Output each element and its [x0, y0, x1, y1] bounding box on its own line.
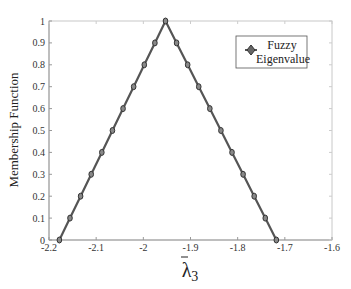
data-point-marker	[153, 40, 158, 46]
data-point-marker	[252, 193, 257, 199]
data-point-marker	[57, 237, 62, 243]
x-tick-label: -1.9	[183, 242, 199, 253]
data-point-marker	[174, 40, 179, 46]
y-tick-label: 0.2	[33, 191, 46, 202]
x-axis-label: λ3	[182, 259, 199, 284]
data-point-marker	[131, 84, 136, 90]
y-axis-label: Membership Function	[6, 72, 21, 188]
y-tick-label: 0.7	[33, 81, 46, 92]
data-point-marker	[100, 149, 105, 155]
x-tick-label: -2	[139, 242, 147, 253]
x-tick-label: -1.7	[277, 242, 293, 253]
x-axis-label-sub: 3	[191, 269, 198, 284]
legend: Fuzzy Eigenvalue	[236, 36, 310, 68]
y-tick-label: 0.1	[33, 213, 46, 224]
data-point-marker	[196, 84, 201, 90]
data-point-marker	[89, 171, 94, 177]
y-tick-label: 0.4	[33, 147, 46, 158]
data-point-marker	[163, 18, 168, 24]
x-tick-label: -2.1	[88, 242, 104, 253]
x-tick-label: -1.8	[230, 242, 246, 253]
data-point-marker	[219, 128, 224, 134]
membership-chart: -2.2-2.1-2-1.9-1.8-1.7-1.6 00.10.20.30.4…	[0, 0, 351, 289]
data-point-marker	[121, 106, 126, 112]
y-tick-label: 0.8	[33, 59, 46, 70]
data-point-marker	[230, 149, 235, 155]
y-tick-label: 0	[40, 235, 45, 246]
y-tick-label: 1	[40, 16, 45, 27]
x-axis-label-base: λ	[182, 259, 192, 281]
data-point-marker	[274, 237, 279, 243]
y-tick-label: 0.6	[33, 103, 46, 114]
data-point-marker	[241, 171, 246, 177]
data-point-marker	[185, 62, 190, 68]
data-point-marker	[68, 215, 73, 221]
x-tick-label: -1.6	[324, 242, 340, 253]
y-tick-label: 0.3	[33, 169, 46, 180]
data-point-marker	[78, 193, 83, 199]
data-point-marker	[110, 128, 115, 134]
legend-label-line2: Eigenvalue	[256, 52, 310, 66]
y-tick-label: 0.5	[33, 125, 46, 136]
legend-label-line1: Fuzzy	[267, 38, 296, 52]
y-tick-label: 0.9	[33, 37, 46, 48]
data-point-marker	[208, 106, 213, 112]
data-point-marker	[142, 62, 147, 68]
data-point-marker	[263, 215, 268, 221]
